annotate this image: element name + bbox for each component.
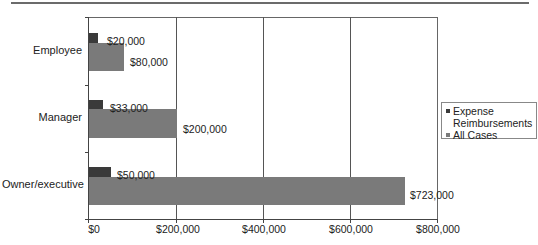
category-label-manager: Manager (2, 111, 82, 123)
y-tick (85, 85, 89, 86)
category-label-owner: Owner/executive (2, 178, 82, 190)
bar-expense-employee (89, 33, 98, 43)
x-tick-label: $0 (88, 223, 100, 235)
y-tick (85, 152, 89, 153)
y-tick (85, 17, 89, 18)
x-tick-label: $200,000 (156, 223, 200, 235)
top-rule (11, 2, 529, 4)
value-label: $200,000 (183, 123, 227, 135)
bar-allcases-owner (89, 177, 405, 205)
legend-label-line1: Expense (453, 105, 494, 117)
x-tick-label: $800,000 (416, 223, 460, 235)
bar-expense-owner (89, 167, 111, 177)
legend-swatch-icon (446, 133, 450, 137)
value-label: $50,000 (117, 169, 155, 181)
category-label-employee: Employee (2, 44, 82, 56)
legend-label: Expense Reimbursements (453, 105, 532, 129)
bar-expense-manager (89, 100, 103, 109)
legend-item-expense: Expense Reimbursements (446, 105, 536, 129)
x-tick-label: $600,000 (329, 223, 373, 235)
value-label: $723,000 (410, 189, 454, 201)
x-tick-label: $400,000 (242, 223, 286, 235)
legend: Expense Reimbursements All Cases (441, 102, 537, 139)
legend-label-line2: Reimbursements (453, 117, 532, 129)
legend-item-allcases: All Cases (446, 129, 536, 141)
value-label: $33,000 (110, 102, 148, 114)
legend-label: All Cases (453, 129, 497, 141)
value-label: $80,000 (130, 56, 168, 68)
bar-allcases-employee (89, 43, 124, 71)
legend-swatch-icon (446, 109, 450, 113)
value-label: $20,000 (107, 35, 145, 47)
